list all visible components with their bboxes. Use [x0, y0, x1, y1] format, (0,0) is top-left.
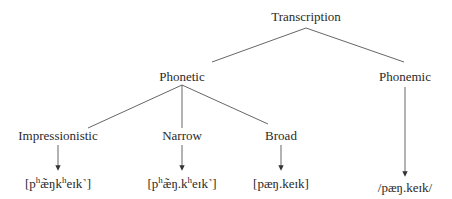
ex-part: æ̃ŋk [40, 176, 62, 191]
example-narrow: [phæ̃ŋ.kheɪk˺] [147, 177, 216, 191]
ex-part: eɪk˺] [192, 176, 217, 191]
node-impressionistic: Impressionistic [18, 129, 97, 143]
node-phonetic: Phonetic [159, 70, 205, 84]
example-impressionistic: [phæ̃ŋkheɪk˺] [25, 177, 91, 191]
example-phonemic: /pæŋ.keɪk/ [378, 181, 432, 195]
node-broad: Broad [265, 129, 297, 143]
ex-part: [p [147, 176, 158, 191]
node-narrow: Narrow [162, 129, 202, 143]
tree-edges [0, 0, 452, 199]
transcription-tree-diagram: Transcription Phonetic Phonemic Impressi… [0, 0, 452, 199]
node-phonemic: Phonemic [379, 70, 431, 84]
node-transcription: Transcription [271, 10, 341, 24]
ex-part: eɪk˺] [66, 176, 91, 191]
example-broad: [pæŋ.keɪk] [253, 177, 309, 191]
ex-part: æ̃ŋ.k [163, 176, 188, 191]
ex-part: [p [25, 176, 36, 191]
